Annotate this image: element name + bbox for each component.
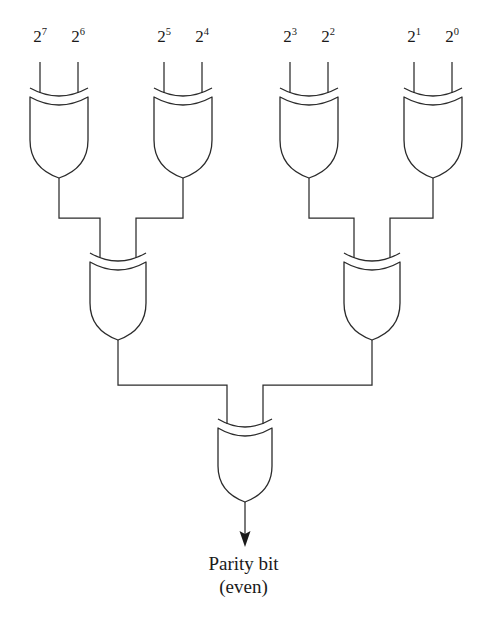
input-label-in3-base: 2 xyxy=(283,27,292,46)
xor-gate-xor-l1-c xyxy=(280,88,338,178)
xor-gate-xor-l2-a xyxy=(90,253,146,340)
input-wires-group xyxy=(40,62,452,93)
input-label-in0-base: 2 xyxy=(445,27,454,46)
parity-circuit-diagram: 27 26 25 24 23 22 21 20 Parity bit (even… xyxy=(0,0,487,634)
parity-output-wire-group xyxy=(240,502,251,547)
input-label-in5-base: 2 xyxy=(157,27,166,46)
xor-back-arc-l1-c xyxy=(280,88,338,96)
input-label-in0: 20 xyxy=(445,28,459,45)
xor-body-l3 xyxy=(218,428,272,502)
input-label-in1-base: 2 xyxy=(407,27,416,46)
xor-back-arc-l3 xyxy=(218,419,272,427)
xor-gate-xor-l1-a xyxy=(30,88,88,178)
input-label-in1: 21 xyxy=(407,28,421,45)
wire-xor-l1-a-to-xor-l2-a xyxy=(59,178,100,258)
input-label-in5: 25 xyxy=(157,28,171,45)
xor-back-arc-l1-d xyxy=(404,88,462,96)
level2-to-level3-wires xyxy=(118,340,372,424)
wire-xor-l1-d-to-xor-l2-b xyxy=(390,178,433,258)
input-label-in3-exponent: 3 xyxy=(292,26,297,37)
input-label-in6-base: 2 xyxy=(71,27,80,46)
xor-back-arc-l2-b xyxy=(344,253,400,261)
input-label-in3: 23 xyxy=(283,28,297,45)
xor-body-l1-a xyxy=(30,97,88,178)
xor-back-arc-l2-a xyxy=(90,253,146,261)
wire-xor-l2-a-to-xor-l3 xyxy=(118,340,227,424)
input-label-in6-exponent: 6 xyxy=(80,26,85,37)
xor-body-l1-c xyxy=(280,97,338,178)
wire-xor-l2-b-to-xor-l3 xyxy=(263,340,372,424)
xor-gate-xor-l1-b xyxy=(154,88,212,178)
xor-body-l2-b xyxy=(344,262,400,340)
input-label-in4: 24 xyxy=(195,28,209,45)
input-label-in1-exponent: 1 xyxy=(416,26,421,37)
input-label-in0-exponent: 0 xyxy=(454,26,459,37)
xor-back-arc-l1-a xyxy=(30,88,88,96)
xor-body-l2-a xyxy=(90,262,146,340)
xor-gate-xor-l1-d xyxy=(404,88,462,178)
xor-body-l1-b xyxy=(154,97,212,178)
circuit-svg xyxy=(0,0,487,634)
parity-output-label-line2: (even) xyxy=(0,576,487,598)
level1-to-level2-wires xyxy=(59,178,433,258)
input-label-in2: 22 xyxy=(321,28,335,45)
input-label-in7-base: 2 xyxy=(33,27,42,46)
input-label-in6: 26 xyxy=(71,28,85,45)
input-label-in7: 27 xyxy=(33,28,47,45)
xor-gate-xor-l2-b xyxy=(344,253,400,340)
input-label-in5-exponent: 5 xyxy=(166,26,171,37)
input-label-in4-base: 2 xyxy=(195,27,204,46)
input-label-in2-exponent: 2 xyxy=(330,26,335,37)
xor-gate-xor-l3 xyxy=(218,419,272,502)
input-label-in7-exponent: 7 xyxy=(42,26,47,37)
parity-output-label-line1: Parity bit xyxy=(0,553,487,575)
xor-back-arc-l1-b xyxy=(154,88,212,96)
wire-xor-l1-c-to-xor-l2-b xyxy=(309,178,354,258)
wire-xor-l1-b-to-xor-l2-a xyxy=(136,178,183,258)
input-label-in4-exponent: 4 xyxy=(204,26,209,37)
xor-body-l1-d xyxy=(404,97,462,178)
input-label-in2-base: 2 xyxy=(321,27,330,46)
